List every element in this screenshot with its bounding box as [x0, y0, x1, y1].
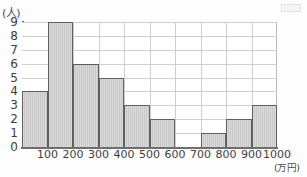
y-tick-label: 4 [10, 85, 18, 97]
y-tick-label: 5 [10, 72, 18, 84]
scan-artifact-mark [281, 4, 301, 12]
histogram-bar [226, 119, 252, 147]
y-tick-label: 8 [10, 30, 18, 42]
gridline-x-6 [175, 22, 176, 147]
x-tick-label: 400 [114, 149, 135, 160]
scanned-figure: (人) 0123456789 1002003004005006007008009… [0, 0, 307, 177]
y-tick-label: 0 [10, 141, 18, 153]
x-tick-label: 300 [88, 149, 109, 160]
y-tick-label: 1 [10, 127, 18, 139]
gridline-x-7 [201, 22, 202, 147]
x-tick-label: 200 [63, 149, 84, 160]
y-tick-label: 9 [10, 16, 18, 28]
histogram-bar [150, 119, 176, 147]
x-tick-label: 100 [37, 149, 58, 160]
x-tick-label: 500 [139, 149, 160, 160]
x-tick-label: 1000 [263, 149, 291, 160]
x-axis-unit-label: (万円) [274, 160, 299, 174]
y-tick-label: 3 [10, 99, 18, 111]
x-tick-label: 900 [241, 149, 262, 160]
histogram-bar [99, 78, 125, 147]
histogram-bar [252, 105, 278, 147]
histogram-bar [201, 133, 227, 147]
histogram-plot-area: 0123456789 10020030040050060070080090010… [22, 22, 277, 147]
y-tick-label: 7 [10, 44, 18, 56]
histogram-bar [124, 105, 150, 147]
histogram-bar [22, 91, 48, 147]
x-tick-label: 700 [190, 149, 211, 160]
histogram-bar [48, 22, 74, 147]
y-tick-label: 2 [10, 113, 18, 125]
histogram-bar [73, 64, 99, 147]
x-tick-label: 600 [165, 149, 186, 160]
x-tick-label: 800 [216, 149, 237, 160]
y-tick-label: 6 [10, 58, 18, 70]
